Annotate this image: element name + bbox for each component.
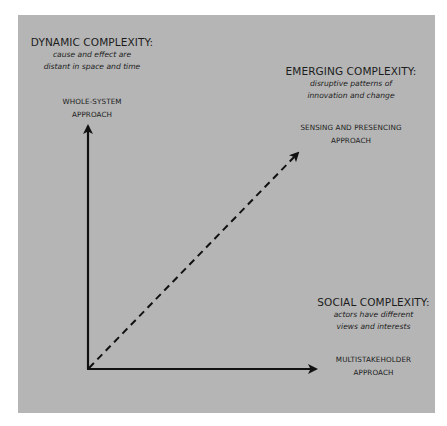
emerging-complexity-heading: EMERGING COMPLEXITY: <box>262 65 440 78</box>
multistakeholder-approach-line-2: APPROACH <box>300 366 447 379</box>
sensing-presencing-approach-label: SENSING AND PRESENCING APPROACH <box>262 121 440 147</box>
emerging-complexity-desc-2: innovation and change <box>262 90 440 102</box>
social-complexity-desc-1: actors have different <box>300 309 447 321</box>
social-complexity-heading: SOCIAL COMPLEXITY: <box>300 296 447 309</box>
emerging-complexity-desc-1: disruptive patterns of <box>262 78 440 90</box>
whole-system-approach-label: WHOLE-SYSTEM APPROACH <box>22 95 162 121</box>
dynamic-complexity-label: DYNAMIC COMPLEXITY: cause and effect are… <box>22 36 162 73</box>
social-complexity-desc-2: views and interests <box>300 321 447 333</box>
multistakeholder-approach-line-1: MULTISTAKEHOLDER <box>300 353 447 366</box>
dynamic-complexity-heading: DYNAMIC COMPLEXITY: <box>22 36 162 49</box>
whole-system-approach-line-2: APPROACH <box>22 108 162 121</box>
dynamic-complexity-desc-2: distant in space and time <box>22 61 162 73</box>
multistakeholder-approach-label: MULTISTAKEHOLDER APPROACH <box>300 353 447 379</box>
diagonal-dashed-arrow <box>89 153 298 368</box>
emerging-complexity-label: EMERGING COMPLEXITY: disruptive patterns… <box>262 65 440 102</box>
social-complexity-label: SOCIAL COMPLEXITY: actors have different… <box>300 296 447 333</box>
whole-system-approach-line-1: WHOLE-SYSTEM <box>22 95 162 108</box>
sensing-presencing-approach-line-2: APPROACH <box>262 134 440 147</box>
sensing-presencing-approach-line-1: SENSING AND PRESENCING <box>262 121 440 134</box>
dynamic-complexity-desc-1: cause and effect are <box>22 49 162 61</box>
